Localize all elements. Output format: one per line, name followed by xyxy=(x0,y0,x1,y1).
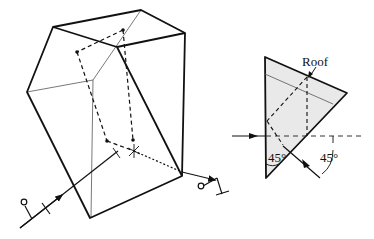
outgoing-ray xyxy=(182,172,229,195)
roof-label: Roof xyxy=(302,54,329,69)
prism-diagram: Roof 45° 45° xyxy=(0,0,374,239)
arrowhead-icon xyxy=(302,159,310,168)
internal-ray-path xyxy=(77,30,134,151)
incoming-ray xyxy=(20,151,118,228)
angle-label-right: 45° xyxy=(320,150,338,165)
angle-label-left: 45° xyxy=(268,150,286,165)
prism-outer-edges xyxy=(27,10,185,218)
arrowhead-icon xyxy=(249,133,258,139)
prism-inner-edges xyxy=(27,10,141,218)
left-roof-prism xyxy=(20,10,229,228)
right-prism-cross-section: Roof 45° 45° xyxy=(232,54,362,178)
exit-ray-right xyxy=(283,146,320,178)
